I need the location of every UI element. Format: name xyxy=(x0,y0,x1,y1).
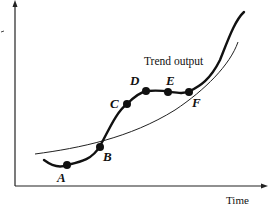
y-axis-arrow-icon xyxy=(13,0,18,7)
trend-diagram: A B C D E F Trend output Time xyxy=(0,0,271,204)
point-c xyxy=(123,100,131,108)
point-f-label: F xyxy=(191,95,201,110)
point-d-label: D xyxy=(129,73,140,88)
trend-curve xyxy=(35,42,238,154)
point-d xyxy=(142,87,150,95)
point-b-label: B xyxy=(102,149,112,164)
x-axis-label: Time xyxy=(226,194,249,204)
y-axis-label-mark xyxy=(1,31,4,32)
point-e xyxy=(164,88,172,96)
point-e-label: E xyxy=(165,73,175,88)
point-a-label: A xyxy=(56,170,66,185)
trend-output-label: Trend output xyxy=(144,55,204,68)
point-c-label: C xyxy=(110,96,119,111)
x-axis-arrow-icon xyxy=(261,184,268,189)
point-a xyxy=(63,161,71,169)
